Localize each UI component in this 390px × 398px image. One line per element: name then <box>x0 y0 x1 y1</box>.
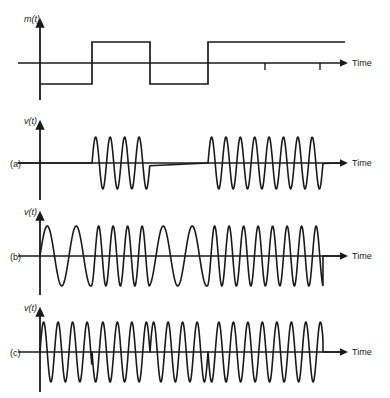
panel-psk: v(t) (c) Time <box>10 303 372 392</box>
panel-ask: v(t) (a) Time <box>10 116 372 200</box>
panel-label-ask: (a) <box>10 159 21 169</box>
y-axis-label-message: m(t) <box>24 14 40 24</box>
x-axis-label-message: Time <box>352 58 372 68</box>
y-axis-label-ask: v(t) <box>24 116 37 126</box>
y-axis-label-fsk: v(t) <box>24 207 37 217</box>
panel-fsk: v(t) (b) Time <box>10 207 372 295</box>
y-axis-label-psk: v(t) <box>24 303 37 313</box>
x-axis-label-psk: Time <box>352 347 372 357</box>
panel-label-psk: (c) <box>10 348 21 358</box>
x-axis-label-ask: Time <box>352 158 372 168</box>
modulation-figure: m(t) Time v(t) (a) Time v(t) (b) Time v(… <box>0 0 390 398</box>
x-axis-label-fsk: Time <box>352 251 372 261</box>
panel-label-fsk: (b) <box>10 252 21 262</box>
panel-message: m(t) Time <box>18 14 372 100</box>
